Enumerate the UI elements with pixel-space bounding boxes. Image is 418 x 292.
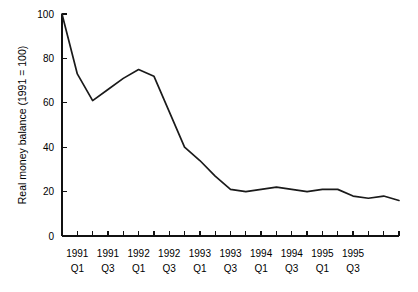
x-tick-label: 1994Q3 xyxy=(281,248,304,274)
y-axis-title: Real money balance (1991 = 100) xyxy=(16,46,28,204)
x-tick-label: 1992Q3 xyxy=(158,248,181,274)
x-tick-label-year: 1992 xyxy=(158,248,181,259)
y-tick-label: 0 xyxy=(48,231,54,242)
x-tick-label-quarter: Q3 xyxy=(285,263,299,274)
y-axis-title-label: Real money balance (1991 = 100) xyxy=(16,46,28,204)
x-tick-label-quarter: Q3 xyxy=(101,263,115,274)
x-tick-label-year: 1991 xyxy=(97,248,120,259)
x-tick-label-year: 1995 xyxy=(311,248,334,259)
y-tick-label: 40 xyxy=(43,142,55,153)
x-tick-label-quarter: Q3 xyxy=(224,263,238,274)
x-tick-label-quarter: Q3 xyxy=(163,263,177,274)
x-tick-label: 1991Q3 xyxy=(97,248,120,274)
y-tick-label: 20 xyxy=(43,186,55,197)
x-tick-label-quarter: Q1 xyxy=(193,263,207,274)
y-tick-label-group: 020406080100 xyxy=(37,9,54,242)
x-tick-label: 1995Q3 xyxy=(342,248,365,274)
x-tick-label-year: 1995 xyxy=(342,248,365,259)
x-tick-label-year: 1992 xyxy=(127,248,150,259)
x-tick-label-year: 1993 xyxy=(189,248,212,259)
x-tick-label-quarter: Q3 xyxy=(346,263,360,274)
x-tick-label-quarter: Q1 xyxy=(316,263,330,274)
x-tick-label: 1993Q3 xyxy=(219,248,242,274)
y-tick-label: 80 xyxy=(43,53,55,64)
x-tick-label-year: 1994 xyxy=(250,248,273,259)
x-tick-label: 1994Q1 xyxy=(250,248,273,274)
x-tick-label-quarter: Q1 xyxy=(254,263,268,274)
x-tick-label-year: 1991 xyxy=(66,248,89,259)
x-tick-label-quarter: Q1 xyxy=(71,263,85,274)
y-tick-label: 60 xyxy=(43,97,55,108)
x-tick-label: 1993Q1 xyxy=(189,248,212,274)
line-chart: Real money balance (1991 = 100) 02040608… xyxy=(0,0,418,292)
y-tick-label: 100 xyxy=(37,9,54,20)
x-tick-label: 1995Q1 xyxy=(311,248,334,274)
chart-container: Real money balance (1991 = 100) 02040608… xyxy=(0,0,418,292)
x-tick-label-quarter: Q1 xyxy=(132,263,146,274)
data-series-line xyxy=(62,14,399,200)
x-tick-label: 1991Q1 xyxy=(66,248,89,274)
x-tick-label-group: 1991Q11991Q31992Q11992Q31993Q11993Q31994… xyxy=(66,248,364,274)
x-tick-label: 1992Q1 xyxy=(127,248,150,274)
x-tick-label-year: 1994 xyxy=(281,248,304,259)
x-tick-label-year: 1993 xyxy=(219,248,242,259)
